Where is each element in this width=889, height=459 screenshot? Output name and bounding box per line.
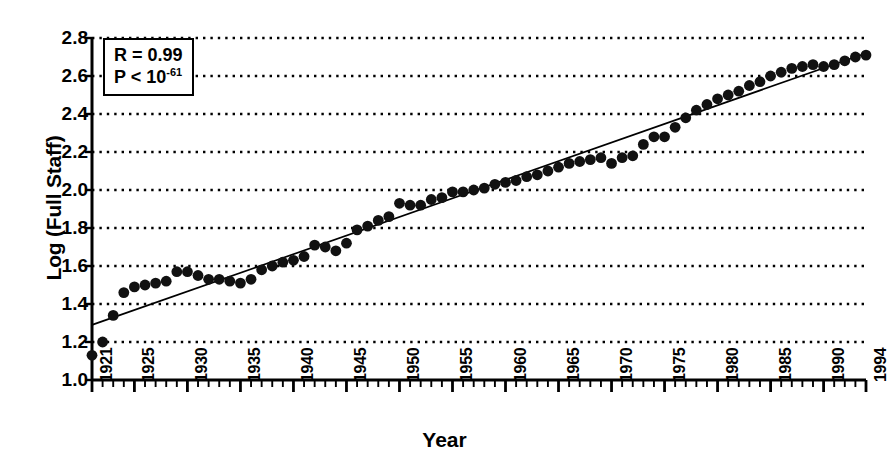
data-point	[224, 276, 235, 287]
data-point	[574, 156, 585, 167]
data-point	[723, 90, 734, 101]
data-point	[458, 187, 469, 198]
data-point	[702, 99, 713, 110]
data-point	[649, 131, 660, 142]
data-point	[288, 255, 299, 266]
data-point	[585, 154, 596, 165]
data-point	[818, 61, 829, 72]
data-point	[744, 80, 755, 91]
data-point	[511, 175, 522, 186]
data-point	[182, 266, 193, 277]
data-point	[490, 179, 501, 190]
data-point	[521, 171, 532, 182]
data-point	[118, 287, 129, 298]
data-point	[532, 169, 543, 180]
data-point	[850, 52, 861, 63]
data-point	[627, 150, 638, 161]
data-point	[108, 310, 119, 321]
data-point	[97, 337, 108, 348]
annotation-p-exponent: -61	[166, 66, 182, 78]
data-point	[797, 61, 808, 72]
data-point	[330, 245, 341, 256]
data-point	[755, 76, 766, 87]
annotation-p-value: P < 10-61	[114, 66, 183, 88]
data-point	[861, 50, 872, 61]
data-point	[352, 225, 363, 236]
data-point	[786, 63, 797, 74]
data-point	[617, 152, 628, 163]
data-point	[468, 185, 479, 196]
data-point	[606, 158, 617, 169]
data-point	[171, 266, 182, 277]
data-point	[447, 187, 458, 198]
data-point	[161, 276, 172, 287]
data-point	[638, 139, 649, 150]
data-point	[129, 282, 140, 293]
data-point	[299, 251, 310, 262]
data-point	[203, 274, 214, 285]
data-point	[341, 238, 352, 249]
data-point	[564, 158, 575, 169]
annotation-r-value: R = 0.99	[114, 45, 183, 66]
data-point	[246, 274, 257, 285]
data-point	[680, 112, 691, 123]
data-point	[415, 200, 426, 211]
data-point	[553, 162, 564, 173]
data-point	[712, 93, 723, 104]
data-point	[373, 215, 384, 226]
data-point	[87, 350, 98, 361]
data-point	[808, 59, 819, 70]
data-point	[659, 131, 670, 142]
data-point	[691, 105, 702, 116]
data-point	[140, 280, 151, 291]
data-point	[383, 211, 394, 222]
data-point	[394, 198, 405, 209]
data-point	[405, 200, 416, 211]
data-point	[256, 264, 267, 275]
data-point	[543, 166, 554, 177]
data-point	[776, 67, 787, 78]
data-point	[362, 221, 373, 232]
data-point	[436, 192, 447, 203]
data-point	[150, 278, 161, 289]
data-point	[829, 59, 840, 70]
data-point	[267, 261, 278, 272]
data-point	[235, 278, 246, 289]
data-point	[670, 122, 681, 133]
data-point	[596, 152, 607, 163]
data-point	[479, 183, 490, 194]
data-point	[320, 242, 331, 253]
annotation-p-prefix: P < 10	[114, 67, 166, 87]
chart-figure: Log (Full Staff) 2.82.62.42.22.01.81.61.…	[0, 0, 889, 459]
data-point	[765, 71, 776, 82]
data-point	[277, 257, 288, 268]
x-axis-title: Year	[0, 428, 889, 452]
data-point	[500, 177, 511, 188]
data-point	[733, 86, 744, 97]
data-point	[193, 270, 204, 281]
data-point	[309, 240, 320, 251]
statistics-annotation-box: R = 0.99 P < 10-61	[103, 38, 194, 96]
data-point	[839, 55, 850, 66]
data-point	[214, 274, 225, 285]
data-point	[426, 194, 437, 205]
